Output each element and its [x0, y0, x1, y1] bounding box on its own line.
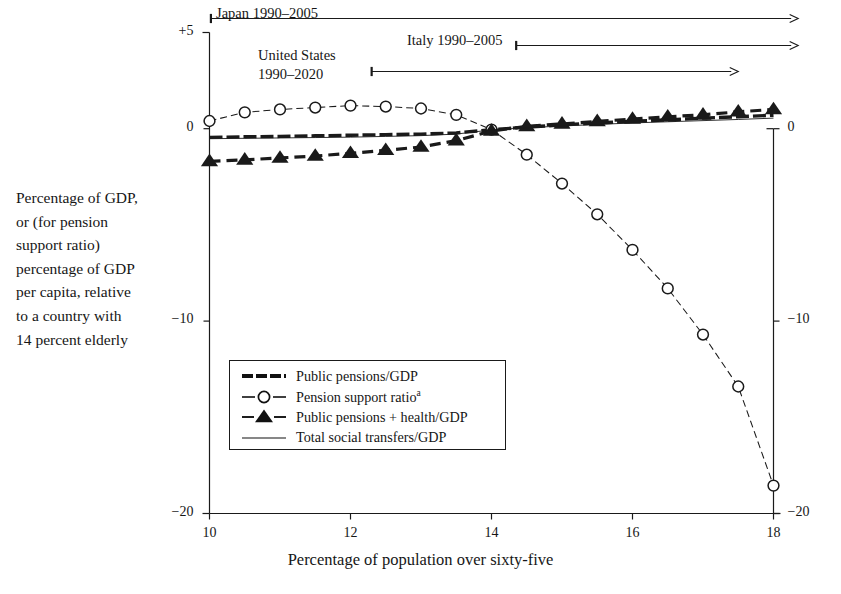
y-tick-label-right-0: 0	[788, 119, 841, 135]
data-point	[521, 149, 532, 160]
legend-footnote-marker: a	[417, 388, 421, 398]
data-point	[239, 107, 250, 118]
data-point	[412, 139, 429, 152]
x-tick-label-1: 12	[321, 525, 381, 541]
legend-item-3: Total social transfers/GDP	[238, 428, 497, 449]
legend-label: Total social transfers/GDP	[290, 429, 446, 446]
data-point	[730, 104, 747, 117]
data-point	[768, 480, 779, 491]
data-point	[592, 209, 603, 220]
x-axis-title: Percentage of population over sixty-five	[0, 550, 841, 570]
data-point	[698, 329, 709, 340]
data-point	[557, 178, 568, 189]
data-point	[662, 283, 673, 294]
data-point	[204, 116, 215, 127]
data-point	[451, 109, 462, 120]
legend-item-0: Public pensions/GDP	[238, 366, 497, 387]
y-tick-label-left-2: −10	[124, 311, 194, 327]
data-point	[380, 101, 391, 112]
legend-marker-dashed-circle	[238, 387, 290, 407]
y-tick-label-left-1: 0	[124, 119, 194, 135]
legend-label: Pension support ratioa	[290, 388, 421, 406]
data-point	[377, 142, 394, 155]
data-point	[416, 103, 427, 114]
legend-marker-dashed-triangle	[238, 407, 290, 427]
data-point	[342, 146, 359, 159]
x-tick-label-3: 16	[603, 525, 663, 541]
legend-marker-thick-line	[238, 366, 290, 386]
legend-label: Public pensions/GDP	[290, 368, 418, 385]
legend-label: Public pensions + health/GDP	[290, 409, 468, 426]
data-point	[627, 245, 638, 256]
y-tick-label-left-0: +5	[124, 23, 194, 39]
legend-item-1: Pension support ratioa	[238, 387, 497, 408]
x-tick-label-0: 10	[180, 525, 240, 541]
data-point	[765, 102, 782, 115]
x-tick-label-2: 14	[462, 525, 522, 541]
annotation-label-japan: Japan 1990–2005	[216, 4, 318, 23]
y-tick-label-right-1: −10	[788, 311, 841, 327]
x-tick-label-4: 18	[744, 525, 804, 541]
y-tick-label-left-3: −20	[124, 504, 194, 520]
data-point	[345, 100, 356, 111]
legend: Public pensions/GDPPension support ratio…	[229, 360, 506, 450]
data-point	[310, 102, 321, 113]
legend-item-2: Public pensions + health/GDP	[238, 407, 497, 428]
chart-figure: Percentage of GDP, or (for pension suppo…	[0, 0, 841, 594]
data-point	[275, 104, 286, 115]
series-public-pensions-health-gdp	[201, 102, 782, 167]
annotation-arrow-italy	[516, 41, 798, 50]
legend-marker-thin-line	[238, 428, 290, 448]
annotation-label-italy: Italy 1990–2005	[407, 31, 502, 50]
y-tick-label-right-2: −20	[788, 504, 841, 520]
annotation-arrow-united-states	[372, 67, 739, 76]
annotation-label-united-states: United States 1990–2020	[258, 46, 336, 84]
data-point	[733, 381, 744, 392]
